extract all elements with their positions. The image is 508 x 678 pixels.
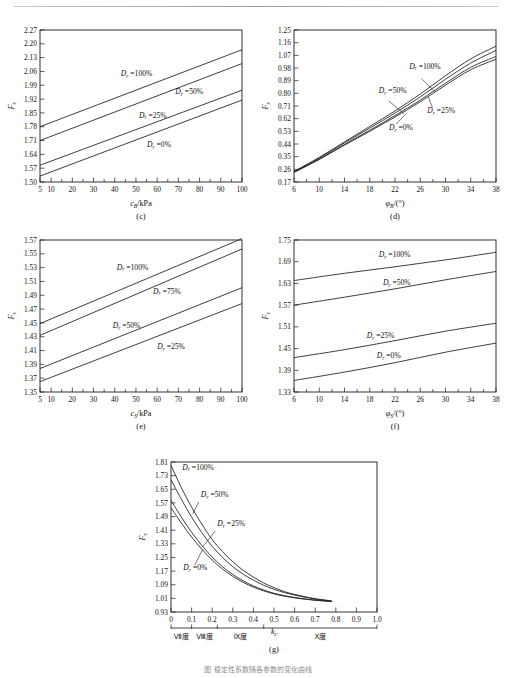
x-tick-label: 34: [467, 395, 475, 404]
x-tick-label: 100: [236, 395, 247, 404]
y-tick-label: 1.65: [155, 485, 168, 494]
x-tick-label: 0.7: [311, 615, 321, 624]
x-tick-label: 0.2: [208, 615, 218, 624]
x-tick-label: 100: [236, 185, 247, 194]
x-tick-label: 0.8: [331, 615, 341, 624]
y-tick-label: 1.71: [24, 136, 37, 145]
x-tick-label: 60: [153, 185, 161, 194]
y-tick-label: 1.51: [278, 322, 291, 331]
series-annotation-f-0: Dr =100%: [378, 250, 411, 260]
series-annotation-c-2: Dr =25%: [138, 111, 167, 121]
panel-c: 1.501.571.641.711.781.851.921.992.062.13…: [0, 18, 254, 230]
y-tick-label: 1.07: [278, 51, 291, 60]
x-tick-label: 50: [132, 185, 140, 194]
y-tick-label: 1.39: [24, 360, 37, 369]
y-tick-label: 1.39: [278, 366, 291, 375]
x-tick-label: 14: [341, 185, 349, 194]
series-annotation-d-3: Dr =0%: [388, 123, 414, 133]
y-tick-label: 1.81: [155, 458, 168, 467]
x-axis-title-c: cB/kPa: [130, 199, 152, 209]
x-tick-label: 10: [47, 185, 55, 194]
y-tick-label: 0.17: [278, 178, 291, 187]
y-tick-label: 1.41: [24, 346, 37, 355]
panel-c-svg: 1.501.571.641.711.781.851.921.992.062.13…: [0, 18, 254, 230]
y-tick-label: 1.85: [24, 109, 37, 118]
y-tick-label: 1.57: [155, 499, 168, 508]
x-tick-label: 90: [217, 395, 225, 404]
intensity-label-0: Ⅶ度: [174, 632, 189, 641]
x-tick-label: 70: [175, 185, 183, 194]
x-axis-title-f: φS/(°): [386, 409, 405, 419]
y-tick-label: 1.57: [24, 236, 37, 245]
intensity-label-1: Ⅷ度: [196, 632, 212, 641]
x-axis-title-e: cS/kPa: [131, 409, 152, 419]
x-axis-title-g: kc: [271, 627, 278, 637]
y-tick-label: 0.35: [278, 152, 291, 161]
y-tick-label: 1.25: [155, 553, 168, 562]
x-tick-label: 20: [69, 395, 77, 404]
y-tick-label: 1.55: [24, 249, 37, 258]
x-tick-label: 10: [316, 395, 324, 404]
x-tick-label: 1.0: [372, 615, 382, 624]
y-axis-title-e: Fs: [7, 312, 17, 320]
x-tick-label: 0.6: [290, 615, 300, 624]
y-tick-label: 1.99: [24, 81, 37, 90]
series-annotation-e-3: Dr =25%: [156, 342, 185, 352]
y-tick-label: 2.06: [24, 67, 37, 76]
x-tick-label: 22: [391, 185, 399, 194]
y-tick-label: 1.45: [278, 344, 291, 353]
series-annotation-d-1: Dr =50%: [378, 86, 407, 96]
series-annotation-e-2: Dr =50%: [112, 321, 141, 331]
x-tick-label: 38: [492, 185, 500, 194]
y-tick-label: 1.78: [24, 122, 37, 131]
y-tick-label: 2.13: [24, 53, 37, 62]
x-tick-label: 10: [316, 185, 324, 194]
y-tick-label: 1.63: [278, 279, 291, 288]
y-tick-label: 0.89: [278, 76, 291, 85]
y-tick-label: 1.09: [155, 580, 168, 589]
y-tick-label: 1.92: [24, 95, 37, 104]
y-tick-label: 1.16: [278, 38, 291, 47]
y-tick-label: 1.69: [278, 257, 291, 266]
series-annotation-g-1: Dr =50%: [200, 490, 229, 500]
x-tick-label: 0.5: [269, 615, 279, 624]
intensity-label-3: Ⅹ度: [314, 632, 326, 641]
plot-frame-c: [40, 30, 242, 182]
x-tick-label: 6: [292, 395, 296, 404]
y-tick-label: 0.44: [278, 140, 291, 149]
y-tick-label: 1.64: [24, 150, 37, 159]
y-tick-label: 1.49: [24, 291, 37, 300]
y-tick-label: 1.25: [278, 26, 291, 35]
plot-frame-f: [294, 240, 496, 392]
x-tick-label: 0.1: [187, 615, 197, 624]
x-tick-label: 18: [366, 185, 374, 194]
x-tick-label: 22: [391, 395, 399, 404]
panel-g-svg: 0.931.011.091.171.251.331.411.491.571.65…: [127, 452, 397, 664]
y-tick-label: 0.26: [278, 165, 291, 174]
y-tick-label: 1.53: [24, 263, 37, 272]
y-tick-label: 0.62: [278, 114, 291, 123]
x-tick-label: 34: [467, 185, 475, 194]
series-annotation-e-1: Dr =75%: [152, 287, 181, 297]
series-annotation-d-0: Dr =100%: [408, 62, 441, 72]
x-tick-label: 50: [132, 395, 140, 404]
y-tick-label: 1.17: [155, 567, 168, 576]
y-tick-label: 1.50: [24, 178, 37, 187]
x-tick-label: 30: [90, 395, 98, 404]
x-tick-label: 80: [196, 185, 204, 194]
y-tick-label: 0.80: [278, 89, 291, 98]
y-tick-label: 1.35: [24, 388, 37, 397]
y-tick-label: 1.33: [278, 388, 291, 397]
y-tick-label: 0.53: [278, 127, 291, 136]
figure-caption: 图 稳定性系数随各参数的变化曲线: [118, 664, 398, 676]
y-axis-title-g: Fs: [138, 533, 148, 541]
series-annotation-c-1: Dr =50%: [174, 87, 203, 97]
panel-id-e: (e): [136, 422, 146, 431]
x-tick-label: 26: [417, 395, 425, 404]
series-annotation-c-3: Dr =0%: [146, 140, 172, 150]
x-tick-label: 5: [38, 395, 42, 404]
x-tick-label: 30: [442, 395, 450, 404]
x-tick-label: 14: [341, 395, 349, 404]
x-axis-title-d: φB/(°): [386, 199, 405, 209]
x-tick-label: 0.3: [228, 615, 238, 624]
